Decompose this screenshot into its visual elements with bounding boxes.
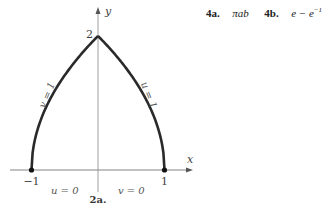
- y-tick-label: 2: [86, 28, 93, 41]
- annotation-label: u = 1: [139, 80, 160, 110]
- x-axis-arrow-icon: [186, 168, 193, 173]
- x-axis-label: x: [187, 153, 194, 166]
- data-point: [29, 167, 34, 172]
- x-tick-label: 1: [161, 175, 168, 188]
- region-chart: x y −112 v = 1u = 1u = 0v = 0 2a.: [0, 0, 335, 212]
- annotation-label: v = 0: [118, 185, 145, 196]
- chart-title: 2a.: [90, 194, 107, 205]
- annotation-label: v = 1: [37, 81, 57, 110]
- y-axis-label: y: [104, 5, 112, 18]
- x-tick-label: −1: [23, 175, 39, 188]
- data-point: [162, 167, 167, 172]
- annotation-label: u = 0: [51, 185, 79, 196]
- y-axis-arrow-icon: [96, 7, 101, 14]
